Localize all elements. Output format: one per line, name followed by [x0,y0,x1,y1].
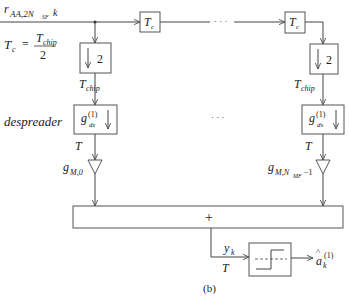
downsample-block-left: 2 [80,43,111,73]
decision-output-label: ^ a k (1) [316,247,334,270]
gain-left: g M,0 [63,160,102,177]
symbol-rate-label-left: T [75,139,83,153]
symbol-rate-label-right: T [305,139,313,153]
svg-text:(1): (1) [324,251,334,260]
downsample-block-right: 2 [310,44,338,74]
despreader-label: despreader [4,114,63,129]
svg-text:AA,2N: AA,2N [9,9,35,19]
tchip-label-left: T chip [79,77,100,93]
svg-text:M,0: M,0 [69,168,83,177]
ellipsis-middle: · · · [211,112,225,122]
svg-text:r: r [4,2,9,16]
svg-text:chip: chip [301,84,315,93]
tc-definition: T c = T chip 2 [4,31,57,62]
figure-caption: (b) [203,282,216,295]
svg-text:ds: ds [89,121,96,129]
svg-text:+: + [205,210,213,225]
svg-text:=: = [22,37,29,51]
svg-text:−1: −1 [304,168,313,177]
summer-block: + [73,206,343,228]
svg-text:g: g [81,111,87,125]
svg-text:(1): (1) [316,110,326,119]
gain-right: g M,N MF −1 [268,160,330,179]
svg-text:c: c [12,45,16,54]
svg-text:(1): (1) [88,110,98,119]
svg-text:2: 2 [97,52,103,66]
svg-text:k: k [53,7,58,18]
decision-device [249,243,291,276]
svg-text:T: T [4,37,12,52]
svg-text:k: k [323,261,327,270]
svg-text:2: 2 [326,53,332,67]
output-rate-label: T [222,261,230,275]
svg-text:SF: SF [42,14,49,20]
svg-text:chip: chip [86,84,100,93]
despreader-block-left: g (1) ds [74,105,117,134]
svg-text:a: a [316,254,322,268]
svg-text:g: g [309,111,315,125]
svg-text:y: y [223,241,230,255]
svg-text:g: g [63,160,69,174]
delay-block-1: T c [140,12,160,32]
delay-block-2: T c [285,12,305,33]
output-line [211,228,249,257]
svg-text:2: 2 [40,48,46,62]
svg-text:M,N: M,N [274,168,290,177]
output-label: y k [223,241,235,257]
despreader-block-diagram: r AA,2N SF k T c = T chip 2 T c · · · T … [0,0,349,296]
delay-to-branch-line [305,22,323,44]
svg-text:k: k [231,248,235,257]
svg-text:MF: MF [292,173,302,179]
input-signal-label: r AA,2N SF k [4,2,58,20]
svg-text:ds: ds [317,121,324,129]
tchip-label-right: T chip [294,77,315,93]
svg-text:g: g [268,160,274,174]
ellipsis-top: · · · [214,16,228,26]
despreader-block-right: g (1) ds [302,105,344,134]
